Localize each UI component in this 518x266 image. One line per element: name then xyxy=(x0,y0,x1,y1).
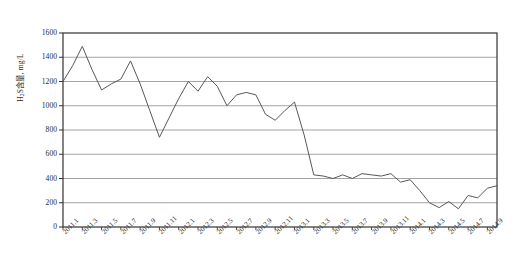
chart-container: H2S含量, mg/L 0200400600800100012001400160… xyxy=(0,0,518,266)
data-line-h2s xyxy=(63,46,497,208)
y-tick-marks xyxy=(59,33,487,230)
gridlines xyxy=(63,57,497,203)
plot-area xyxy=(0,0,518,266)
